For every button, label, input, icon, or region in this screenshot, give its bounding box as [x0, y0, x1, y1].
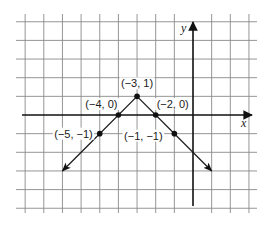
- grid: [16, 14, 257, 213]
- point-label: (−3, 1): [121, 77, 153, 89]
- data-point: [134, 94, 140, 100]
- point-label: (−4, 0): [85, 98, 117, 110]
- y-axis-label: y: [180, 21, 187, 35]
- point-label: (−1, −1): [124, 130, 163, 142]
- data-point: [172, 131, 178, 137]
- x-axis-label: x: [240, 116, 247, 130]
- data-point: [97, 131, 103, 137]
- data-point: [153, 112, 159, 118]
- point-labels: (−5, −1)(−4, 0)(−3, 1)(−2, 0)(−1, −1): [53, 77, 191, 141]
- coordinate-graph: x y (−5, −1)(−4, 0)(−3, 1)(−2, 0)(−1, −1…: [0, 0, 263, 225]
- point-label: (−2, 0): [157, 98, 189, 110]
- point-label: (−5, −1): [54, 128, 93, 140]
- data-point: [116, 112, 122, 118]
